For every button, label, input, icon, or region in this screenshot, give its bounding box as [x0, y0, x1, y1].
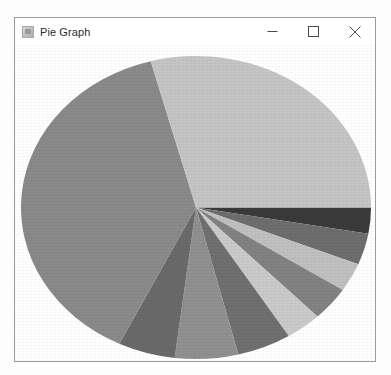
pie-chart[interactable] [15, 45, 375, 361]
close-icon [349, 26, 361, 38]
minimize-button[interactable] [252, 18, 293, 45]
minimize-icon [267, 26, 278, 37]
pie-slice-group [21, 56, 371, 359]
java-app-icon [22, 26, 34, 38]
close-button[interactable] [334, 18, 375, 45]
window-titlebar[interactable]: Pie Graph [15, 18, 375, 45]
maximize-icon [308, 26, 319, 37]
window-title: Pie Graph [40, 26, 90, 38]
desktop-background: Pie Graph [0, 0, 391, 375]
window-controls [252, 18, 375, 45]
titlebar-left-group: Pie Graph [15, 26, 90, 38]
maximize-button[interactable] [293, 18, 334, 45]
pie-graph-window: Pie Graph [14, 17, 376, 362]
chart-client-area [15, 45, 375, 361]
